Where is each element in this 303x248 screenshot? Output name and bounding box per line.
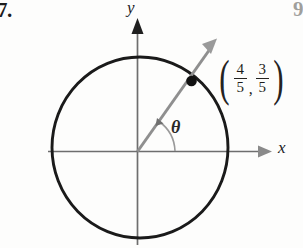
coordinate-separator: , <box>249 81 253 100</box>
point-marker <box>186 76 197 87</box>
figure-container: 7. 9 y x θ ( 4 5 , 3 <box>0 0 303 248</box>
y-axis-label: y <box>127 0 135 18</box>
open-paren: ( <box>219 57 229 100</box>
y-axis-arrowhead <box>132 18 144 34</box>
unit-circle-figure <box>0 0 303 248</box>
terminal-ray-arrowhead <box>202 39 217 55</box>
x-denominator: 5 <box>234 79 246 95</box>
y-numerator: 3 <box>256 62 268 78</box>
x-coordinate-fraction: 4 5 <box>234 62 247 96</box>
point-coordinate-label: ( 4 5 , 3 5 ) <box>216 57 286 100</box>
x-axis-label: x <box>278 138 286 158</box>
y-coordinate-fraction: 3 5 <box>256 62 269 96</box>
close-paren: ) <box>273 57 283 100</box>
y-denominator: 5 <box>256 79 268 95</box>
x-numerator: 4 <box>234 62 246 78</box>
theta-label: θ <box>171 117 180 138</box>
x-axis-arrowhead <box>258 146 272 158</box>
